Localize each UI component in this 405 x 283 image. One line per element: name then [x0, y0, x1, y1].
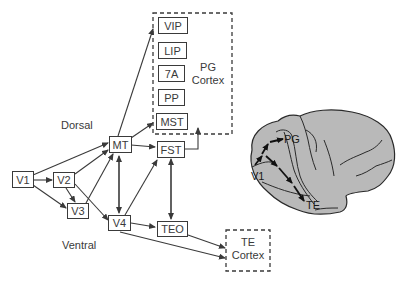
- te-cortex-label: TE Cortex: [228, 236, 268, 262]
- brain-label-pg: PG: [284, 133, 300, 145]
- node-mst: MST: [156, 113, 188, 130]
- dorsal-pathway-label: Dorsal: [61, 119, 93, 131]
- node-mt: MT: [109, 136, 132, 153]
- pg-cortex-label: PG Cortex: [190, 61, 226, 87]
- node-lip: LIP: [158, 42, 187, 59]
- brain-label-v1: V1: [251, 170, 264, 182]
- diagram-canvas: [0, 0, 405, 283]
- node-v1: V1: [12, 171, 34, 188]
- ventral-pathway-label: Ventral: [62, 239, 96, 251]
- node-v4: V4: [108, 215, 131, 231]
- brain-label-te: TE: [306, 199, 320, 211]
- node-v3: V3: [67, 203, 89, 219]
- node-teo: TEO: [157, 221, 188, 237]
- pg-cortex-label-line1: PG: [190, 61, 226, 74]
- te-cortex-label-line2: Cortex: [228, 249, 268, 262]
- node-7a: 7A: [158, 65, 185, 82]
- node-v2: V2: [53, 172, 75, 188]
- pg-cortex-label-line2: Cortex: [190, 74, 226, 87]
- node-pp: PP: [158, 89, 185, 106]
- monkey-brain-illustration: [251, 110, 395, 214]
- node-vip: VIP: [158, 17, 188, 34]
- te-cortex-label-line1: TE: [228, 236, 268, 249]
- node-fst: FST: [157, 141, 185, 158]
